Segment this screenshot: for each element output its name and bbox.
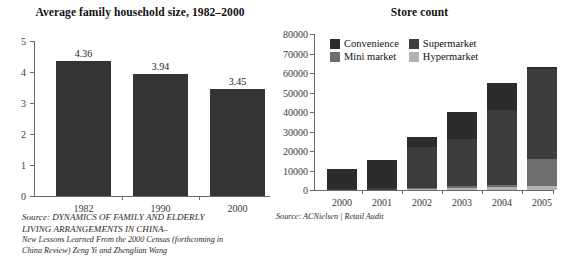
x-tick-label-2004: 2004: [482, 197, 522, 208]
y-tick: [310, 73, 314, 74]
x-tick: [362, 190, 363, 194]
legend-label-supermarket: Supermarket: [423, 38, 477, 49]
y-tick-label: 80000: [268, 29, 308, 40]
y-tick: [30, 165, 34, 166]
y-tick-label: 30000: [268, 126, 308, 137]
y-tick: [30, 41, 34, 42]
x-axis-line: [314, 190, 554, 191]
y-tick: [310, 34, 314, 35]
y-tick: [30, 134, 34, 135]
x-tick: [402, 190, 403, 194]
bar-seg-convenience: [487, 83, 517, 110]
legend-swatch-convenience-icon: [330, 39, 340, 49]
y-axis-line: [314, 34, 315, 191]
bar-2000[interactable]: [327, 169, 357, 191]
source-note-household-size: Source: DYNAMICS OF FAMILY AND ELDERLY L…: [22, 212, 272, 256]
bar-seg-minimarket: [447, 186, 477, 188]
plot-area-store-count: 80000 70000 60000 50000 40000 30000 2000…: [314, 34, 554, 190]
y-tick-label: 50000: [268, 87, 308, 98]
y-tick-label: 40000: [268, 107, 308, 118]
bar-seg-hypermarket: [407, 189, 437, 190]
y-tick-label: 3: [0, 98, 26, 109]
legend-store-count: Convenience Supermarket Mini market Hype…: [330, 38, 478, 62]
bar-seg-convenience: [327, 169, 357, 189]
source-note-store-count: Source: ACNielsen | Retail Audit: [276, 212, 536, 223]
y-tick-label: 70000: [268, 48, 308, 59]
legend-swatch-minimarket-icon: [330, 52, 340, 62]
x-axis-line: [34, 196, 270, 197]
y-tick-label: 10000: [268, 165, 308, 176]
chart-panel-household-size: Average family household size, 1982–2000…: [0, 0, 280, 267]
bar-seg-minimarket: [407, 188, 437, 189]
legend-label-minimarket: Mini market: [344, 51, 396, 62]
x-tick: [199, 196, 200, 200]
x-tick: [482, 190, 483, 194]
legend-swatch-hypermarket-icon: [409, 52, 419, 62]
y-tick-label: 4: [0, 67, 26, 78]
plot-area-household-size: 5 4 3 2 1 0 4.36 3.94 3.45 1982 1990 200…: [34, 41, 270, 196]
bar-seg-supermarket: [527, 69, 557, 159]
chart-title-store-count: Store count: [272, 6, 567, 18]
y-tick: [310, 151, 314, 152]
chart-panel-store-count: Store count 80000 70000 60000 50000 4000…: [272, 0, 567, 267]
x-tick-label-2002: 2002: [402, 197, 442, 208]
bar-seg-supermarket: [407, 147, 437, 188]
bar-seg-supermarket: [327, 189, 357, 190]
legend-item-minimarket[interactable]: Mini market: [330, 51, 399, 62]
source-line: Source: DYNAMICS OF FAMILY AND ELDERLY: [22, 212, 272, 224]
bar-seg-convenience: [407, 137, 437, 147]
bar-seg-supermarket: [487, 110, 517, 185]
legend-label-hypermarket: Hypermarket: [423, 51, 478, 62]
y-tick: [30, 103, 34, 104]
source-line: China Review) Zeng Yi and Zhenglian Wang: [22, 246, 272, 257]
bar-seg-convenience: [447, 112, 477, 139]
y-tick-label: 0: [268, 185, 308, 196]
bar-seg-convenience: [367, 160, 397, 188]
source-line: LIVING ARRANGEMENTS IN CHINA–: [22, 224, 272, 236]
bar-1982[interactable]: [56, 61, 111, 196]
x-tick-label-2005: 2005: [522, 197, 562, 208]
legend-label-convenience: Convenience: [344, 38, 399, 49]
bar-seg-minimarket: [527, 159, 557, 185]
bar-seg-supermarket: [447, 139, 477, 186]
y-tick: [310, 190, 314, 191]
y-tick: [30, 72, 34, 73]
two-chart-figure: Average family household size, 1982–2000…: [0, 0, 567, 267]
bar-2004[interactable]: [487, 83, 517, 190]
y-tick: [310, 171, 314, 172]
y-tick: [310, 93, 314, 94]
y-tick: [310, 54, 314, 55]
y-tick: [310, 132, 314, 133]
x-tick-label-2001: 2001: [362, 197, 402, 208]
bar-seg-convenience: [527, 67, 557, 69]
x-tick-label-2003: 2003: [442, 197, 482, 208]
bar-2005[interactable]: [527, 67, 557, 190]
bar-1990[interactable]: [133, 74, 188, 196]
y-tick: [310, 112, 314, 113]
x-tick: [553, 190, 554, 194]
x-tick-label-2000: 2000: [322, 197, 362, 208]
legend-item-convenience[interactable]: Convenience: [330, 38, 399, 49]
bar-seg-hypermarket: [487, 187, 517, 190]
bar-2002[interactable]: [407, 137, 437, 190]
bar-seg-minimarket: [487, 185, 517, 187]
x-tick: [522, 190, 523, 194]
bar-2000[interactable]: [210, 89, 265, 196]
y-axis-line: [34, 41, 35, 197]
y-tick: [30, 196, 34, 197]
bar-2003[interactable]: [447, 112, 477, 190]
y-tick-label: 60000: [268, 68, 308, 79]
bar-2001[interactable]: [367, 160, 397, 190]
bar-seg-supermarket: [367, 188, 397, 190]
y-tick-label: 1: [0, 160, 26, 171]
legend-item-supermarket[interactable]: Supermarket: [409, 38, 478, 49]
chart-title-household-size: Average family household size, 1982–2000: [0, 6, 280, 18]
legend-item-hypermarket[interactable]: Hypermarket: [409, 51, 478, 62]
y-tick-label: 20000: [268, 146, 308, 157]
source-line: New Lessons Learned From the 2000 Census…: [22, 235, 272, 246]
bar-seg-hypermarket: [447, 188, 477, 190]
y-tick-label: 2: [0, 129, 26, 140]
y-tick-label: 0: [0, 191, 26, 202]
x-tick: [442, 190, 443, 194]
x-tick: [122, 196, 123, 200]
